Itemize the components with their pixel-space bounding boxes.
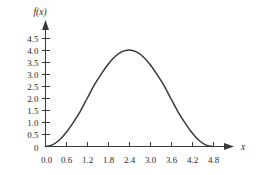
y-tick-label: 0.5 xyxy=(27,130,39,140)
x-tick-label: 1.8 xyxy=(103,155,115,165)
x-tick-label: 0.6 xyxy=(61,155,73,165)
y-tick-label: 1.5 xyxy=(27,106,39,116)
y-axis-label: f(x) xyxy=(33,7,46,18)
x-tick-label: 4.8 xyxy=(208,155,220,165)
axes-group xyxy=(42,20,234,150)
y-tick-label: 4.0 xyxy=(27,46,39,56)
x-axis-label: x xyxy=(240,142,246,152)
y-tick-label: 1.0 xyxy=(27,118,39,128)
x-tick-label: 3.0 xyxy=(145,155,157,165)
x-tick-labels: 0.00.61.21.82.43.03.64.24.8 xyxy=(41,155,220,165)
x-axis-arrowhead xyxy=(224,143,234,150)
y-tick-label: 2.0 xyxy=(27,94,39,104)
y-tick-label: 2.5 xyxy=(27,82,39,92)
x-tick-marks xyxy=(67,142,214,147)
y-axis-arrowhead xyxy=(42,20,49,30)
x-tick-label: 0.0 xyxy=(41,155,53,165)
function-plot: 0.00.61.21.82.43.03.64.24.8 00.51.01.52.… xyxy=(0,0,259,175)
y-tick-label: 0 xyxy=(34,143,39,153)
x-tick-label: 3.6 xyxy=(166,155,178,165)
function-curve xyxy=(46,50,213,147)
y-tick-labels: 00.51.01.52.02.53.03.54.04.5 xyxy=(27,34,39,153)
x-tick-label: 2.4 xyxy=(124,155,136,165)
x-tick-label: 1.2 xyxy=(82,155,93,165)
x-tick-label: 4.2 xyxy=(187,155,198,165)
y-tick-label: 4.5 xyxy=(27,34,39,44)
y-tick-label: 3.5 xyxy=(27,58,39,68)
y-tick-label: 3.0 xyxy=(27,70,39,80)
chart-figure: 0.00.61.21.82.43.03.64.24.8 00.51.01.52.… xyxy=(0,0,259,175)
